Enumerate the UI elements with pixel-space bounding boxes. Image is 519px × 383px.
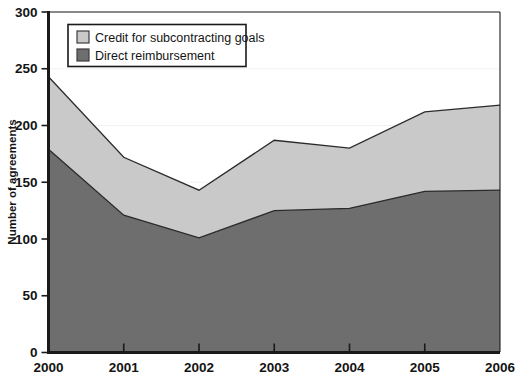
legend-label-credit-for-subcontracting-goals: Credit for subcontracting goals [95, 31, 265, 45]
x-tick-label: 2006 [485, 360, 516, 375]
y-axis-title: Number of agreements [6, 119, 18, 244]
chart-legend: Credit for subcontracting goals Direct r… [68, 25, 265, 67]
area-chart: 050100150200250300 200020012002200320042… [0, 0, 519, 383]
chart-container: 050100150200250300 200020012002200320042… [0, 0, 519, 383]
legend-label-direct-reimbursement: Direct reimbursement [95, 49, 215, 63]
y-tick-label: 150 [15, 175, 38, 190]
x-tick-label: 2005 [410, 360, 441, 375]
x-tick-label: 2004 [334, 360, 365, 375]
y-tick-label: 250 [15, 61, 38, 76]
legend-swatch-credit-for-subcontracting-goals [77, 31, 89, 43]
legend-swatch-direct-reimbursement [77, 49, 89, 61]
y-tick-label: 300 [15, 5, 38, 20]
x-tick-label: 2000 [33, 360, 63, 375]
y-tick-label: 50 [22, 288, 37, 303]
x-tick-label: 2003 [259, 360, 290, 375]
x-tick-label: 2002 [184, 360, 214, 375]
x-tick-label: 2001 [109, 360, 140, 375]
y-tick-label: 200 [15, 118, 38, 133]
y-tick-label: 100 [15, 232, 38, 247]
y-tick-label: 0 [30, 345, 38, 360]
